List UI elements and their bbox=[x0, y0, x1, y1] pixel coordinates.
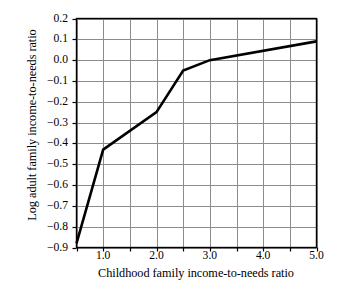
gridlines bbox=[77, 19, 318, 249]
tick-marks bbox=[73, 20, 318, 252]
data-series-line bbox=[77, 41, 317, 243]
axes-frame bbox=[77, 19, 317, 248]
plot-area bbox=[0, 0, 341, 293]
chart-figure: Log adult family income-to-needs ratio C… bbox=[0, 0, 341, 293]
